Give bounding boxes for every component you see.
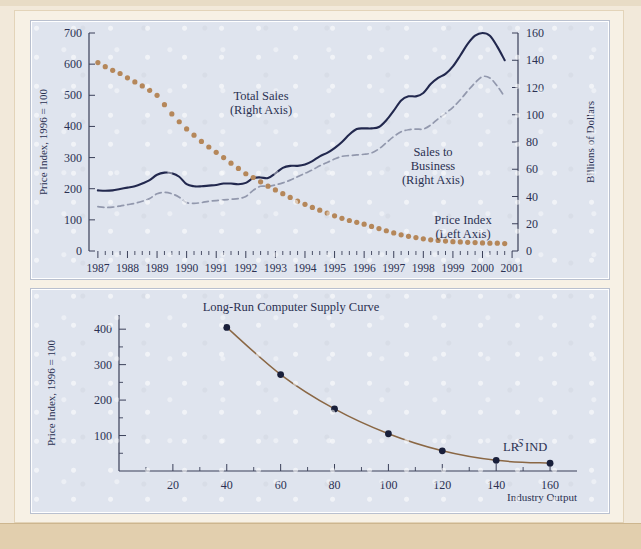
svg-text:80: 80 bbox=[329, 478, 341, 492]
svg-text:100: 100 bbox=[379, 478, 397, 492]
svg-text:1995: 1995 bbox=[323, 262, 346, 274]
svg-text:140: 140 bbox=[487, 478, 505, 492]
annotation-price-index: Price Index (Left Axis) bbox=[434, 213, 492, 241]
supply-curve-label: LR S IND bbox=[503, 436, 547, 454]
svg-text:100: 100 bbox=[526, 108, 544, 122]
annotation-sales-to-business-line2: Business bbox=[411, 159, 456, 173]
svg-text:300: 300 bbox=[94, 358, 112, 372]
svg-text:0: 0 bbox=[526, 244, 532, 258]
svg-text:300: 300 bbox=[64, 151, 82, 165]
svg-text:400: 400 bbox=[64, 119, 82, 133]
svg-text:700: 700 bbox=[64, 26, 82, 40]
annotation-sales-to-business: Sales to Business (Right Axis) bbox=[402, 145, 464, 187]
svg-text:400: 400 bbox=[94, 322, 112, 336]
annotation-price-index-line1: Price Index bbox=[434, 213, 492, 227]
svg-text:120: 120 bbox=[433, 478, 451, 492]
svg-text:1994: 1994 bbox=[293, 262, 316, 274]
svg-text:40: 40 bbox=[526, 190, 538, 204]
right-axis-title: Billions of Dollars bbox=[584, 101, 596, 183]
svg-text:500: 500 bbox=[64, 88, 82, 102]
long-run-supply-curve-chart: Long-Run Computer Supply Curve 100200300… bbox=[31, 289, 609, 513]
annotation-total-sales-line2: (Right Axis) bbox=[230, 103, 292, 117]
svg-text:120: 120 bbox=[526, 81, 544, 95]
svg-text:0: 0 bbox=[76, 244, 82, 258]
chart-panel-prices-and-sales: 0100200300400500600700 02040608010012014… bbox=[30, 20, 610, 280]
svg-text:1989: 1989 bbox=[146, 262, 169, 274]
svg-text:80: 80 bbox=[526, 135, 538, 149]
svg-text:600: 600 bbox=[64, 57, 82, 71]
annotation-total-sales: Total Sales (Right Axis) bbox=[230, 89, 292, 117]
supply-y-axis-ticks: 100200300400 bbox=[94, 322, 126, 453]
x-axis-ticks: 1987198819891990199119921993199419951996… bbox=[86, 251, 523, 274]
supply-curve-line bbox=[227, 327, 550, 463]
svg-text:160: 160 bbox=[526, 26, 544, 40]
svg-text:140: 140 bbox=[526, 53, 544, 67]
computer-prices-and-sales-chart: 0100200300400500600700 02040608010012014… bbox=[31, 21, 609, 279]
annotation-total-sales-line1: Total Sales bbox=[233, 89, 288, 103]
svg-text:160: 160 bbox=[541, 478, 559, 492]
svg-text:200: 200 bbox=[94, 393, 112, 407]
left-axis-ticks: 0100200300400500600700 bbox=[64, 26, 95, 258]
svg-text:1992: 1992 bbox=[234, 262, 257, 274]
svg-text:2000: 2000 bbox=[471, 262, 494, 274]
svg-text:100: 100 bbox=[64, 213, 82, 227]
annotation-price-index-line2: (Left Axis) bbox=[435, 227, 490, 241]
chart-panel-supply-curve: Long-Run Computer Supply Curve 100200300… bbox=[30, 288, 610, 514]
svg-text:1990: 1990 bbox=[175, 262, 198, 274]
chart-title: Long-Run Computer Supply Curve bbox=[203, 300, 380, 314]
supply-y-axis-title: Price Index, 1996 = 100 bbox=[45, 339, 57, 446]
frame-top-edge bbox=[0, 0, 641, 6]
svg-text:2001: 2001 bbox=[501, 262, 524, 274]
left-axis-title: Price Index, 1996 = 100 bbox=[37, 88, 49, 195]
svg-text:20: 20 bbox=[526, 217, 538, 231]
svg-text:60: 60 bbox=[275, 478, 287, 492]
annotation-sales-to-business-line3: (Right Axis) bbox=[402, 173, 464, 187]
svg-text:40: 40 bbox=[221, 478, 233, 492]
supply-curve-label-sub: IND bbox=[525, 440, 547, 454]
svg-text:1993: 1993 bbox=[264, 262, 287, 274]
svg-text:1991: 1991 bbox=[205, 262, 228, 274]
supply-curve-label-main: S bbox=[517, 436, 524, 450]
svg-text:20: 20 bbox=[167, 478, 179, 492]
supply-x-axis-title: Industry Output bbox=[507, 491, 577, 503]
svg-text:100: 100 bbox=[94, 429, 112, 443]
supply-x-axis-ticks: 20406080100120140160 bbox=[146, 464, 559, 492]
svg-text:1998: 1998 bbox=[412, 262, 435, 274]
right-axis-ticks: 020406080100120140160 bbox=[512, 26, 544, 258]
svg-text:1988: 1988 bbox=[116, 262, 139, 274]
svg-text:1987: 1987 bbox=[86, 262, 109, 274]
frame-bottom-band bbox=[0, 523, 641, 549]
svg-text:1996: 1996 bbox=[353, 262, 376, 274]
svg-text:1999: 1999 bbox=[441, 262, 464, 274]
svg-text:60: 60 bbox=[526, 162, 538, 176]
svg-text:200: 200 bbox=[64, 182, 82, 196]
svg-text:1997: 1997 bbox=[382, 262, 405, 274]
annotation-sales-to-business-line1: Sales to bbox=[413, 145, 452, 159]
